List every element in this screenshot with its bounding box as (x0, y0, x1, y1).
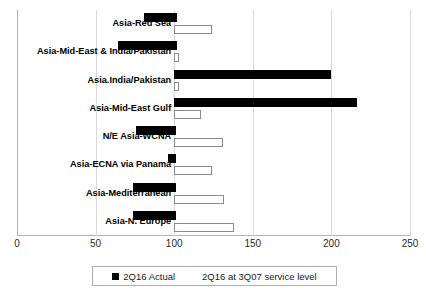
bar-service-level (174, 82, 179, 91)
gridline-250 (410, 10, 411, 236)
bar-service-level (174, 138, 223, 147)
legend-swatch-actual-icon (112, 273, 119, 280)
legend-label: 2Q16 at 3Q07 service level (202, 271, 317, 282)
x-axis: 050100150200250 (17, 238, 410, 256)
x-tick-label: 50 (90, 238, 101, 249)
category-label: Asia-N. Europe (0, 216, 171, 227)
category-label: Asia-Mid-East & India/Pakistan (0, 46, 171, 57)
bar-actual (174, 70, 331, 79)
chart-row: Asia-Mid-East & India/Pakistan (17, 38, 410, 66)
bar-service-level (174, 53, 179, 62)
legend-label: 2Q16 Actual (123, 271, 175, 282)
category-label: Asia-ECNA via Panama (0, 159, 171, 170)
chart-row: Asia.India/Pakistan (17, 67, 410, 95)
bar-service-level (174, 223, 234, 232)
chart-row: Asia-Mediterranean (17, 180, 410, 208)
category-label: Asia.India/Pakistan (0, 75, 171, 86)
category-label: Asia-Mid-East Gulf (0, 103, 171, 114)
legend-entry: 2Q16 Actual (112, 271, 175, 282)
bar-service-level (174, 195, 224, 204)
chart-row: Asia-Mid-East Gulf (17, 95, 410, 123)
category-label: Asia-Mediterranean (0, 188, 171, 199)
chart-row: Asia-ECNA via Panama (17, 151, 410, 179)
bar-actual (174, 98, 356, 107)
bar-service-level (174, 25, 212, 34)
x-tick-label: 100 (166, 238, 183, 249)
x-tick-label: 0 (14, 238, 20, 249)
chart-legend: 2Q16 Actual2Q16 at 3Q07 service level (92, 266, 337, 286)
category-label: N/E Asia-WCNA (0, 131, 171, 142)
legend-entry: 2Q16 at 3Q07 service level (189, 271, 317, 282)
plot-area: Asia-Red SeaAsia-Mid-East & India/Pakist… (17, 10, 410, 236)
chart-row: Asia-N. Europe (17, 208, 410, 236)
bar-service-level (174, 166, 212, 175)
chart-container: Asia-Red SeaAsia-Mid-East & India/Pakist… (0, 0, 426, 296)
category-label: Asia-Red Sea (0, 18, 171, 29)
x-tick-label: 250 (402, 238, 419, 249)
x-tick-label: 200 (323, 238, 340, 249)
legend-swatch-service-icon (189, 272, 198, 281)
bar-service-level (174, 110, 201, 119)
chart-row: N/E Asia-WCNA (17, 123, 410, 151)
x-tick-label: 150 (244, 238, 261, 249)
chart-row: Asia-Red Sea (17, 10, 410, 38)
